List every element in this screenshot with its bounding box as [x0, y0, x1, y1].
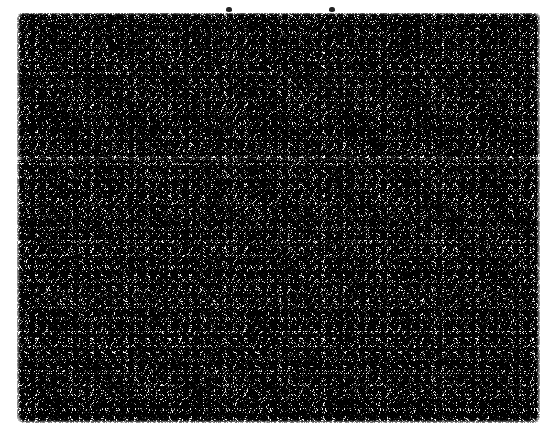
page-canvas	[0, 0, 553, 437]
noise-grain-overlay	[17, 13, 540, 423]
dark-speck-artifact-left	[226, 7, 232, 12]
dark-speck-artifact-right	[329, 7, 335, 12]
noise-field	[17, 13, 540, 423]
